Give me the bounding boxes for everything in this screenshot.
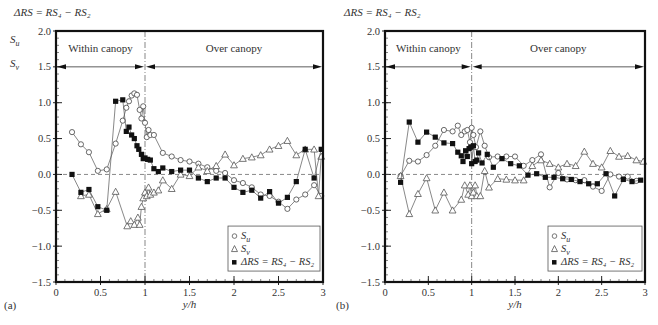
data-point xyxy=(560,176,565,181)
data-point xyxy=(476,150,481,155)
data-point xyxy=(512,154,517,159)
series-line-2 xyxy=(72,100,321,210)
data-point xyxy=(603,171,608,176)
region-label: Within canopy xyxy=(396,42,461,54)
data-point xyxy=(146,127,151,132)
x-tick-label: 0 xyxy=(53,287,58,298)
data-point xyxy=(223,170,228,175)
x-axis-label: y/h xyxy=(507,298,522,310)
data-point xyxy=(266,146,273,152)
data-point xyxy=(231,178,236,183)
data-point xyxy=(223,175,228,180)
data-point xyxy=(525,173,530,178)
x-tick-label: 2.5 xyxy=(595,287,608,298)
data-point xyxy=(529,162,536,168)
data-point xyxy=(433,135,438,140)
data-point xyxy=(555,164,562,170)
data-point xyxy=(303,147,308,152)
x-tick-label: 2 xyxy=(231,287,236,298)
data-point xyxy=(69,172,74,177)
data-point xyxy=(240,190,245,195)
data-point xyxy=(187,159,192,164)
data-point xyxy=(624,152,631,158)
y-tick-label: 1.5 xyxy=(367,61,380,72)
data-point xyxy=(458,196,465,202)
y-tick-label: 0.5 xyxy=(367,133,380,144)
data-point xyxy=(482,143,487,148)
ylabel-sv: Sv xyxy=(10,57,20,72)
arrow-right-icon xyxy=(462,64,471,69)
data-point xyxy=(160,150,165,155)
data-point xyxy=(543,175,548,180)
data-point xyxy=(569,177,574,182)
data-point xyxy=(581,148,588,154)
data-point xyxy=(398,180,403,185)
data-point xyxy=(141,104,146,109)
x-tick-label: 3 xyxy=(320,287,325,298)
data-point xyxy=(258,195,263,200)
data-point xyxy=(406,210,413,216)
data-point xyxy=(471,132,476,137)
data-point xyxy=(494,175,501,181)
data-point xyxy=(142,120,147,125)
data-point xyxy=(169,154,174,159)
data-point xyxy=(577,179,582,184)
data-point xyxy=(151,166,156,171)
data-point xyxy=(86,187,91,192)
data-point xyxy=(478,129,483,134)
data-point xyxy=(249,188,254,193)
data-point xyxy=(424,130,429,135)
panel-b: ΔRS = RS₄ − RS₂2.01.51.00.50.0−0.5−1.0−1… xyxy=(336,6,648,312)
data-point xyxy=(196,175,201,180)
data-point xyxy=(433,143,438,148)
arrow-left-icon xyxy=(57,64,66,69)
region-label: Within canopy xyxy=(68,42,133,54)
data-point xyxy=(538,157,545,163)
x-tick-label: 0 xyxy=(382,287,387,298)
y-tick-label: −0.5 xyxy=(32,205,51,216)
data-point xyxy=(293,152,300,158)
data-point xyxy=(156,169,161,174)
x-tick-label: 3 xyxy=(642,287,647,298)
data-point xyxy=(155,187,162,193)
data-point xyxy=(151,132,156,137)
data-point xyxy=(126,124,131,129)
data-point xyxy=(564,160,571,166)
x-tick-label: 0.5 xyxy=(422,287,435,298)
x-tick-label: 0.5 xyxy=(94,287,107,298)
data-point xyxy=(485,152,490,157)
data-point xyxy=(94,210,101,216)
data-point xyxy=(257,152,264,158)
data-point xyxy=(432,207,439,213)
data-point xyxy=(481,167,488,173)
data-point xyxy=(441,140,446,145)
legend-label: ΔRS = RS₄ − RS₂ xyxy=(240,256,314,267)
data-point xyxy=(474,157,479,162)
data-point xyxy=(104,208,109,213)
data-point xyxy=(148,157,153,162)
data-point xyxy=(450,129,455,134)
data-point xyxy=(214,168,219,173)
panel-label: (a) xyxy=(4,299,17,312)
data-point xyxy=(169,169,174,174)
y-tick-label: 0.0 xyxy=(367,169,380,180)
data-point xyxy=(136,147,141,152)
data-point xyxy=(455,123,460,128)
data-point xyxy=(124,105,129,110)
data-point xyxy=(187,168,192,173)
data-point xyxy=(139,116,144,121)
data-point xyxy=(120,97,125,102)
arrow-right-icon xyxy=(313,64,322,69)
legend-label: ΔRS = RS₄ − RS₂ xyxy=(560,256,634,267)
data-point xyxy=(460,159,465,164)
data-point xyxy=(136,221,143,227)
data-point xyxy=(303,192,308,197)
data-point xyxy=(551,175,556,180)
data-point xyxy=(294,179,299,184)
y-tick-label: −1.5 xyxy=(361,277,380,288)
data-point xyxy=(145,184,152,190)
data-point xyxy=(407,119,412,124)
arrow-left-icon xyxy=(473,64,482,69)
data-point xyxy=(469,125,474,130)
series-line-1 xyxy=(81,141,321,226)
